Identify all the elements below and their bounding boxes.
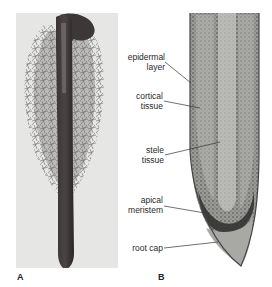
panel-letter-a: A [17, 272, 24, 282]
label-text: tissue [142, 155, 164, 165]
label-text: stele [142, 145, 164, 155]
label-text: meristem [128, 205, 163, 215]
leader-apical [164, 206, 205, 213]
label-epidermal-layer: epidermal layer [128, 52, 165, 72]
label-text: apical [128, 195, 163, 205]
label-cortical-tissue: cortical tissue [136, 91, 163, 111]
label-text: root cap [132, 243, 163, 253]
panel-letter-b: B [158, 272, 165, 282]
label-root-cap: root cap [132, 243, 163, 253]
leader-rootcap [164, 242, 218, 248]
label-text: tissue [136, 101, 163, 111]
label-text: cortical [136, 91, 163, 101]
label-text: layer [128, 62, 165, 72]
label-text: epidermal [128, 52, 165, 62]
leader-epidermal [165, 62, 191, 83]
label-apical-meristem: apical meristem [128, 195, 163, 215]
label-stele-tissue: stele tissue [142, 145, 164, 165]
stele-region [218, 13, 236, 211]
